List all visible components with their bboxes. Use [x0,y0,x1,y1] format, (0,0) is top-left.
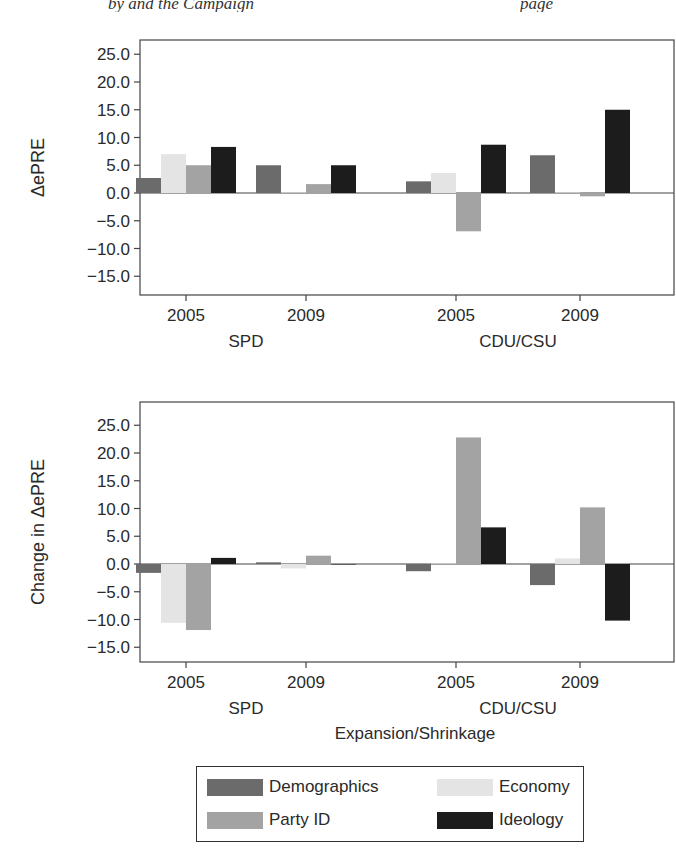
bar-party-id [456,437,481,564]
chart-legend: Demographics Economy Party ID Ideology [196,766,584,842]
y-tick-label: 15.0 [97,472,130,491]
legend-swatch-party-id [207,812,263,829]
bar-party-id [306,556,331,564]
bar-ideology [605,564,630,621]
legend-swatch-ideology [437,812,493,829]
y-tick-label: −15.0 [87,638,130,657]
bar-economy [431,563,456,564]
y-tick-label: 5.0 [106,527,130,546]
bar-party-id [580,507,605,564]
bar-economy [161,564,186,623]
bar-party-id [186,564,211,630]
group-label-cdu-csu: CDU/CSU [479,699,556,718]
legend-swatch-economy [437,779,493,796]
bar-demographics [136,564,161,573]
y-tick-label: −5.0 [96,583,130,602]
y-tick-label: 20.0 [97,444,130,463]
bar-ideology [211,558,236,564]
expansion-shrinkage-chart: 25.020.015.010.05.00.0−5.0−10.0−15.02005… [0,0,676,760]
legend-label: Economy [499,777,570,797]
legend-label: Ideology [499,810,563,830]
legend-item-demographics: Demographics [207,776,379,798]
x-tick-label: 2005 [167,673,205,692]
legend-item-party-id: Party ID [207,809,330,831]
legend-swatch-demographics [207,779,263,796]
bar-economy [555,558,580,564]
bar-demographics [530,564,555,585]
legend-item-ideology: Ideology [437,809,563,831]
legend-label: Demographics [269,777,379,797]
bar-economy [281,564,306,568]
x-tick-label: 2005 [437,673,475,692]
group-label-spd: SPD [229,699,264,718]
x-tick-label: 2009 [561,673,599,692]
legend-label: Party ID [269,810,330,830]
y-axis-label: Change in ΔePRE [28,459,48,605]
bar-ideology [331,564,356,565]
bar-demographics [406,564,431,571]
y-tick-label: 10.0 [97,500,130,519]
x-tick-label: 2009 [287,673,325,692]
legend-item-economy: Economy [437,776,570,798]
y-tick-label: 0.0 [106,555,130,574]
y-tick-label: 25.0 [97,416,130,435]
x-axis-label: Expansion/Shrinkage [335,724,496,743]
y-tick-label: −10.0 [87,611,130,630]
bar-demographics [256,562,281,564]
bar-ideology [481,527,506,564]
